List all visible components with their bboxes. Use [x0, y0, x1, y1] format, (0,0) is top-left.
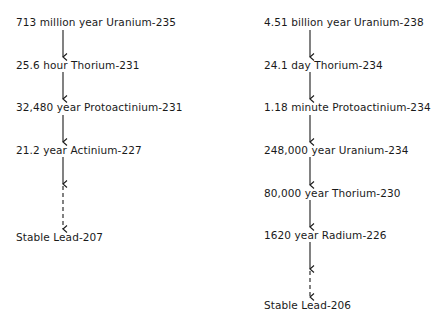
- decay-arrows: [0, 0, 430, 327]
